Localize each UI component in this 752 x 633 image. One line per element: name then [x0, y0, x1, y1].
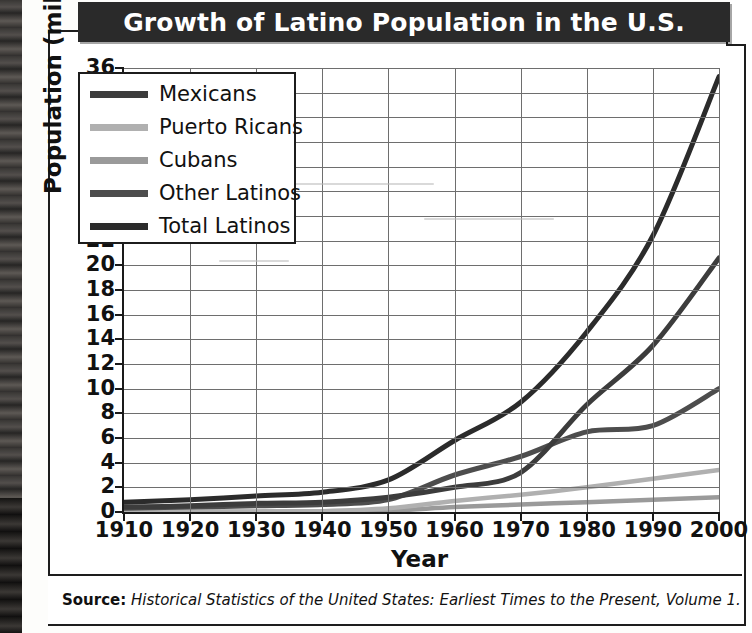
- legend-swatch-cubans: [90, 157, 148, 164]
- y-axis-tick: [115, 314, 124, 316]
- gridline-vertical: [455, 68, 456, 512]
- x-axis-tick-label: 1920: [155, 520, 225, 541]
- x-axis-tick-label: 1950: [353, 520, 423, 541]
- legend-label-puerto-ricans: Puerto Ricans: [159, 117, 303, 138]
- legend-item-mexicans: Mexicans: [80, 78, 294, 111]
- source-label: Source:: [62, 591, 126, 609]
- gridline-horizontal: [124, 389, 719, 390]
- x-axis-tick-label: 1970: [486, 520, 556, 541]
- gridline-vertical: [388, 68, 389, 512]
- y-axis-tick-label: 6: [69, 427, 115, 448]
- y-axis-tick-label: 4: [69, 452, 115, 473]
- y-axis-tick-label: 12: [69, 353, 115, 374]
- y-axis-tick: [115, 486, 124, 488]
- chart-legend: Mexicans Puerto Ricans Cubans Other Lati…: [78, 72, 296, 244]
- y-axis-tick-label: 18: [69, 279, 115, 300]
- y-axis-title: Population (millions): [40, 0, 66, 194]
- legend-label-total-latinos: Total Latinos: [159, 216, 290, 237]
- x-axis-title: Year: [122, 546, 717, 572]
- legend-swatch-mexicans: [90, 91, 148, 98]
- gridline-vertical: [587, 68, 588, 512]
- source-note: Source: Historical Statistics of the Uni…: [48, 591, 741, 609]
- scan-smudge: [424, 218, 554, 220]
- gridline-horizontal: [124, 463, 719, 464]
- x-axis-tick-label: 2000: [684, 520, 752, 541]
- page-sheet: Growth of Latino Population in the U.S. …: [22, 0, 730, 633]
- y-axis-tick-label: 20: [69, 254, 115, 275]
- gridline-horizontal: [124, 364, 719, 365]
- source-bar: Source: Historical Statistics of the Uni…: [48, 574, 742, 624]
- legend-item-puerto-ricans: Puerto Ricans: [80, 111, 294, 144]
- legend-item-cubans: Cubans: [80, 144, 294, 177]
- x-axis-tick-label: 1930: [221, 520, 291, 541]
- y-axis-tick-label: 10: [69, 378, 115, 399]
- x-axis-tick-label: 1960: [420, 520, 490, 541]
- y-axis-tick: [115, 462, 124, 464]
- chart-container: Population (millions) 363432302826242220…: [48, 44, 742, 574]
- scan-page-edge-artifact-lower: [0, 498, 22, 633]
- gridline-horizontal: [124, 315, 719, 316]
- y-axis-tick: [115, 437, 124, 439]
- y-axis-tick: [115, 363, 124, 365]
- legend-label-mexicans: Mexicans: [159, 84, 257, 105]
- legend-swatch-total-latinos: [90, 223, 148, 230]
- gridline-vertical: [521, 68, 522, 512]
- gridline-horizontal: [124, 265, 719, 266]
- y-axis-tick-label: 16: [69, 304, 115, 325]
- legend-item-other-latinos: Other Latinos: [80, 177, 294, 210]
- legend-label-other-latinos: Other Latinos: [159, 183, 301, 204]
- gridline-horizontal: [124, 413, 719, 414]
- y-axis-tick: [115, 388, 124, 390]
- source-citation: Historical Statistics of the United Stat…: [131, 591, 741, 609]
- gridline-vertical: [653, 68, 654, 512]
- legend-swatch-puerto-ricans: [90, 124, 148, 131]
- page-title: Growth of Latino Population in the U.S.: [123, 8, 685, 37]
- gridline-horizontal: [124, 339, 719, 340]
- y-axis-tick-label: 14: [69, 328, 115, 349]
- y-axis-tick: [115, 289, 124, 291]
- y-axis-tick: [115, 412, 124, 414]
- gridline-horizontal: [124, 487, 719, 488]
- x-axis-tick-label: 1990: [618, 520, 688, 541]
- gridline-vertical: [719, 68, 720, 512]
- y-axis-tick: [115, 264, 124, 266]
- gridline-vertical: [322, 68, 323, 512]
- scan-smudge: [219, 260, 289, 262]
- legend-swatch-other-latinos: [90, 190, 148, 197]
- chart-title-bar: Growth of Latino Population in the U.S.: [78, 2, 730, 42]
- gridline-horizontal: [124, 438, 719, 439]
- gridline-horizontal: [124, 290, 719, 291]
- legend-item-total-latinos: Total Latinos: [80, 210, 294, 243]
- y-axis-tick-label: 8: [69, 402, 115, 423]
- y-axis-tick: [115, 67, 124, 69]
- x-axis-tick-label: 1940: [287, 520, 357, 541]
- y-axis-tick-label: 2: [69, 476, 115, 497]
- gridline-horizontal: [124, 68, 719, 69]
- legend-label-cubans: Cubans: [159, 150, 237, 171]
- x-axis-tick-label: 1980: [552, 520, 622, 541]
- x-axis-tick-label: 1910: [89, 520, 159, 541]
- y-axis-tick: [115, 338, 124, 340]
- series-line-mexicans: [124, 258, 719, 507]
